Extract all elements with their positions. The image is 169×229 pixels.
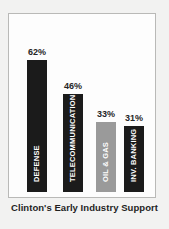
bar-label-telecommunications: TELECOMMUNICATIONS: [69, 94, 77, 181]
bar-group-telecommunications: 46% TELECOMMUNICATIONS: [63, 94, 83, 192]
bar-defense: DEFENSE: [27, 60, 47, 192]
bar-telecommunications: TELECOMMUNICATIONS: [63, 94, 83, 192]
bar-group-inv-banking: 31% INV. BANKING: [124, 126, 144, 192]
bar-group-oil-and-gas: 33% OIL & GAS: [96, 122, 116, 192]
bar-label-oil-and-gas: OIL & GAS: [102, 142, 110, 182]
bar-value-telecommunications: 46%: [64, 82, 82, 91]
bar-label-inv-banking: INV. BANKING: [130, 128, 138, 181]
bar-label-defense: DEFENSE: [33, 145, 41, 182]
bar-value-defense: 62%: [28, 48, 46, 57]
bar-inv-banking: INV. BANKING: [124, 126, 144, 192]
chart-screenshot: 62% DEFENSE 46% TELECOMMUNICATIONS 33% O…: [0, 0, 169, 229]
bar-value-oil-and-gas: 33%: [97, 110, 115, 119]
chart-plot-area: 62% DEFENSE 46% TELECOMMUNICATIONS 33% O…: [9, 14, 155, 197]
bar-value-inv-banking: 31%: [125, 114, 143, 123]
bar-group-defense: 62% DEFENSE: [27, 60, 47, 192]
chart-frame: 62% DEFENSE 46% TELECOMMUNICATIONS 33% O…: [8, 13, 156, 198]
chart-caption: Clinton's Early Industry Support: [0, 203, 169, 213]
bar-oil-and-gas: OIL & GAS: [96, 122, 116, 192]
